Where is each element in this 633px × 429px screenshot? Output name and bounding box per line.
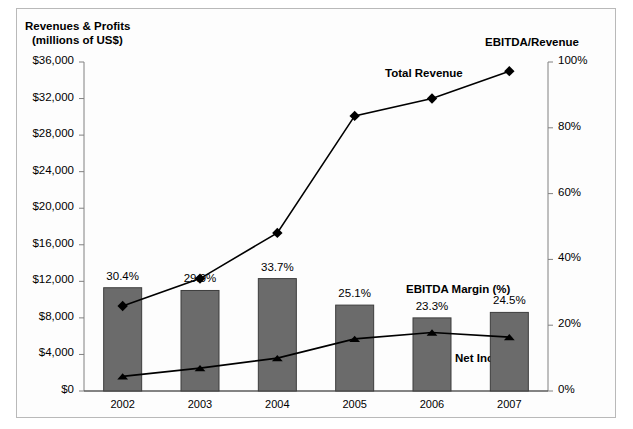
bar[interactable] — [490, 312, 528, 391]
y-axis-tick-label: $28,000 — [0, 127, 74, 139]
plot-area — [0, 0, 633, 429]
bar-data-label: 29.9% — [160, 272, 240, 284]
y-axis-tick-label: $16,000 — [0, 237, 74, 249]
data-point-marker[interactable] — [504, 66, 514, 76]
y2-axis-tick-label: 100% — [558, 54, 587, 66]
chart-canvas: Revenues & Profits (millions of US$) EBI… — [0, 0, 633, 429]
y2-axis-tick-label: 40% — [558, 251, 581, 263]
bar[interactable] — [258, 279, 296, 391]
y-axis-tick-label: $36,000 — [0, 54, 74, 66]
y2-axis-tick-label: 20% — [558, 317, 581, 329]
bar-data-label: 24.5% — [469, 294, 549, 306]
y-axis-tick-label: $20,000 — [0, 200, 74, 212]
bar-data-label: 25.1% — [315, 287, 395, 299]
bar[interactable] — [181, 290, 219, 391]
x-axis-tick-label: 2004 — [237, 398, 317, 410]
data-point-marker[interactable] — [427, 93, 437, 103]
x-axis-tick-label: 2002 — [83, 398, 163, 410]
y-axis-tick-label: $8,000 — [0, 310, 74, 322]
y-axis-tick-label: $24,000 — [0, 164, 74, 176]
x-axis-tick-label: 2006 — [392, 398, 472, 410]
data-point-marker[interactable] — [272, 228, 282, 238]
y-axis-tick-label: $4,000 — [0, 346, 74, 358]
x-axis-tick-label: 2003 — [160, 398, 240, 410]
bar-data-label: 23.3% — [392, 300, 472, 312]
bar-data-label: 33.7% — [237, 261, 317, 273]
y2-axis-tick-label: 60% — [558, 186, 581, 198]
data-point-marker[interactable] — [349, 111, 359, 121]
y-axis-tick-label: $12,000 — [0, 273, 74, 285]
y2-axis-tick-label: 80% — [558, 120, 581, 132]
x-axis-tick-label: 2007 — [469, 398, 549, 410]
bar[interactable] — [413, 318, 451, 391]
y2-axis-tick-label: 0% — [558, 383, 575, 395]
x-axis-tick-label: 2005 — [315, 398, 395, 410]
bar-data-label: 30.4% — [83, 270, 163, 282]
bar[interactable] — [336, 305, 374, 391]
y-axis-tick-label: $0 — [0, 383, 74, 395]
y-axis-tick-label: $32,000 — [0, 91, 74, 103]
